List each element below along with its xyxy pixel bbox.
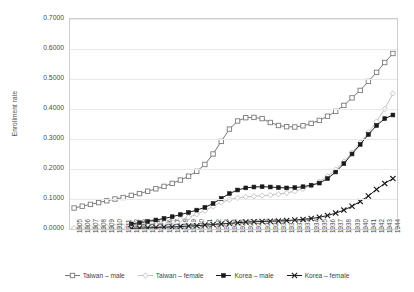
x-axis-tick-label: 1913 — [141, 203, 148, 233]
data-point-marker — [137, 191, 141, 195]
gridline — [70, 79, 397, 80]
data-point-marker — [244, 116, 248, 120]
data-point-marker — [309, 183, 313, 187]
data-point-marker — [374, 187, 379, 192]
legend-label: Taiwan – male — [83, 272, 125, 279]
x-axis-tick-label: 1930 — [280, 203, 287, 233]
x-axis-tick-label: 1940 — [362, 203, 369, 233]
data-point-marker — [277, 186, 281, 190]
data-point-marker — [366, 193, 371, 198]
x-axis-tick-label: 1916 — [166, 203, 173, 233]
data-point-marker — [301, 185, 305, 189]
data-point-marker — [285, 186, 289, 190]
data-point-marker — [145, 189, 149, 193]
data-point-marker — [293, 186, 297, 190]
data-point-marker — [390, 91, 395, 96]
legend-marker-icon — [65, 272, 80, 279]
y-axis-title: Enrollment rate — [11, 64, 18, 164]
x-axis-tick-label: 1939 — [354, 203, 361, 233]
x-axis-tick-label: 1923 — [223, 203, 230, 233]
x-axis-tick-label: 1905 — [76, 203, 83, 233]
data-point-marker — [383, 117, 387, 121]
x-axis-tick-label: 1920 — [198, 203, 205, 233]
data-point-marker — [326, 177, 330, 181]
x-axis-tick-label: 1915 — [157, 203, 164, 233]
data-point-marker — [235, 119, 239, 123]
data-point-marker — [350, 96, 354, 100]
data-point-marker — [268, 120, 272, 124]
data-point-marker — [162, 184, 166, 188]
data-point-marker — [276, 123, 280, 127]
series-taiwan-male — [72, 51, 395, 210]
series-line — [74, 54, 393, 209]
legend-label: Taiwan – female — [156, 272, 204, 279]
data-point-marker — [268, 185, 272, 189]
data-point-marker — [70, 273, 74, 277]
chart-legend: Taiwan – maleTaiwan – femaleKorea – male… — [0, 272, 414, 279]
data-point-marker — [391, 51, 395, 55]
x-axis-tick-label: 1934 — [313, 203, 320, 233]
data-point-marker — [228, 192, 232, 196]
legend-item-korea-female[interactable]: Korea – female — [287, 272, 350, 279]
legend-label: Korea – male — [234, 272, 273, 279]
legend-marker-icon — [216, 272, 231, 279]
x-axis-tick-label: 1912 — [133, 203, 140, 233]
x-axis-tick-label: 1929 — [272, 203, 279, 233]
gridline — [70, 169, 397, 170]
data-point-marker — [325, 114, 329, 118]
y-axis-tick-label: 0.7000 — [30, 14, 64, 21]
data-point-marker — [358, 143, 362, 147]
data-point-marker — [244, 186, 248, 190]
plot-area — [69, 18, 398, 230]
legend-marker-icon — [287, 272, 302, 279]
series-layer — [70, 19, 397, 229]
data-point-marker — [301, 124, 305, 128]
data-point-marker — [129, 193, 133, 197]
legend-item-taiwan-female[interactable]: Taiwan – female — [138, 272, 204, 279]
x-axis-tick-label: 1928 — [264, 203, 271, 233]
data-point-marker — [252, 115, 256, 119]
y-axis-tick-label: 0.2000 — [30, 164, 64, 171]
data-point-marker — [260, 116, 264, 120]
data-point-marker — [170, 181, 174, 185]
data-point-marker — [350, 152, 354, 156]
y-axis-tick-label: 0.0000 — [30, 224, 64, 231]
legend-marker-icon — [138, 272, 153, 279]
enrollment-rate-line-chart: Enrollment rate 0.00000.10000.20000.3000… — [0, 0, 414, 292]
data-point-marker — [276, 192, 281, 197]
data-point-marker — [143, 273, 148, 278]
x-axis-tick-label: 1914 — [149, 203, 156, 233]
data-point-marker — [317, 118, 321, 122]
data-point-marker — [292, 273, 297, 278]
x-axis-tick-label: 1931 — [288, 203, 295, 233]
data-point-marker — [260, 185, 264, 189]
x-axis-tick-label: 1938 — [345, 203, 352, 233]
legend-item-taiwan-male[interactable]: Taiwan – male — [65, 272, 125, 279]
data-point-marker — [366, 133, 370, 137]
x-axis-tick-label: 1909 — [108, 203, 115, 233]
data-point-marker — [342, 162, 346, 166]
data-point-marker — [309, 121, 313, 125]
x-axis-tick-label: 1932 — [296, 203, 303, 233]
x-axis-tick-label: 1924 — [231, 203, 238, 233]
x-axis-tick-label: 1926 — [247, 203, 254, 233]
gridline — [70, 19, 397, 20]
y-axis-tick-label: 0.3000 — [30, 134, 64, 141]
x-axis-tick-label: 1918 — [182, 203, 189, 233]
x-axis-tick-label: 1942 — [378, 203, 385, 233]
x-axis-tick-label: 1941 — [370, 203, 377, 233]
data-point-marker — [203, 162, 207, 166]
x-axis-tick-label: 1919 — [190, 203, 197, 233]
y-axis-tick-label: 0.5000 — [30, 74, 64, 81]
x-axis-tick-label: 1943 — [386, 203, 393, 233]
data-point-marker — [390, 176, 395, 181]
x-axis-tick-label: 1925 — [239, 203, 246, 233]
gridline — [70, 49, 397, 50]
gridline — [70, 139, 397, 140]
y-axis-tick-label: 0.1000 — [30, 194, 64, 201]
data-point-marker — [391, 113, 395, 117]
data-point-marker — [383, 60, 387, 64]
data-point-marker — [342, 103, 346, 107]
legend-item-korea-male[interactable]: Korea – male — [216, 272, 273, 279]
x-axis-tick-label: 1911 — [125, 203, 132, 233]
